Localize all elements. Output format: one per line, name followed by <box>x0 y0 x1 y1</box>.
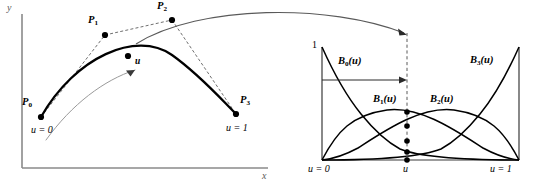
basis-curve-b2 <box>322 110 519 160</box>
figure-vector-layer <box>0 0 543 186</box>
basis-x-tick-label-u-zero: u = 0 <box>308 163 330 174</box>
basis-x-tick-label-u-one: u = 1 <box>490 163 512 174</box>
basis-label-b2: B2(u) <box>430 93 453 106</box>
control-point-label-p2-sub: 2 <box>163 5 167 13</box>
basis-label-b1-base: B <box>373 93 380 104</box>
control-point-label-p3-sub: 3 <box>246 99 250 107</box>
basis-label-b1-arg: (u) <box>384 93 397 104</box>
basis-label-b3-base: B <box>470 54 477 65</box>
left-panel-u-end-label: u = 1 <box>226 122 248 133</box>
basis-label-b0: B0(u) <box>338 55 361 68</box>
control-point-dot-p1 <box>102 32 108 38</box>
basis-value-dot-4 <box>404 149 410 155</box>
control-polygon <box>41 20 236 117</box>
basis-curve-b1 <box>322 110 519 160</box>
control-point-dots <box>38 17 239 120</box>
basis-label-b3-arg: (u) <box>481 54 494 65</box>
control-point-label-p1-sub: 1 <box>94 19 98 27</box>
basis-label-b0-base: B <box>338 55 345 66</box>
control-point-label-p0-sub: 0 <box>28 101 32 109</box>
figure-bezier-bernstein: y x P0 P1 P2 P3 u = 0 u = 1 u 1 B0(u) B1… <box>0 0 543 186</box>
control-point-label-p0: P0 <box>22 96 32 109</box>
basis-y-tick-label-one: 1 <box>312 39 317 50</box>
u-mapping-arrow-shaft <box>136 12 404 44</box>
control-point-dot-p2 <box>169 17 175 23</box>
control-point-dot-p3 <box>233 111 239 117</box>
control-point-label-p1: P1 <box>88 14 98 27</box>
basis-value-dot-1 <box>404 109 410 115</box>
x-axis-label: x <box>262 170 266 181</box>
basis-label-b2-base: B <box>430 93 437 104</box>
basis-value-dot-5 <box>404 157 410 163</box>
value-readout-arrow <box>322 77 407 84</box>
basis-label-b3: B3(u) <box>470 54 493 67</box>
basis-label-b0-arg: (u) <box>349 55 362 66</box>
left-panel-u-start-label: u = 0 <box>31 124 53 135</box>
u-mapping-arrow-head <box>398 29 407 36</box>
control-point-dot-p0 <box>38 114 44 120</box>
polygon-segment-p1-p2 <box>105 20 172 35</box>
curve-parameter-label: u <box>135 56 140 66</box>
polygon-segment-p2-p3 <box>172 20 236 114</box>
basis-value-dot-2 <box>404 123 410 129</box>
control-point-label-p2: P2 <box>157 0 167 13</box>
basis-value-dot-3 <box>404 138 410 144</box>
y-axis-label: y <box>7 2 11 13</box>
u-mapping-arrow <box>136 12 407 44</box>
basis-label-b2-arg: (u) <box>441 93 454 104</box>
curve-parameter-dot <box>125 53 131 59</box>
basis-label-b1: B1(u) <box>373 93 396 106</box>
value-readout-arrow-head <box>399 77 407 84</box>
direction-arrow-shaft <box>46 70 135 140</box>
parameter-direction-arrow <box>46 70 135 140</box>
basis-x-tick-label-u: u <box>403 163 408 174</box>
control-point-label-p3: P3 <box>240 94 250 107</box>
